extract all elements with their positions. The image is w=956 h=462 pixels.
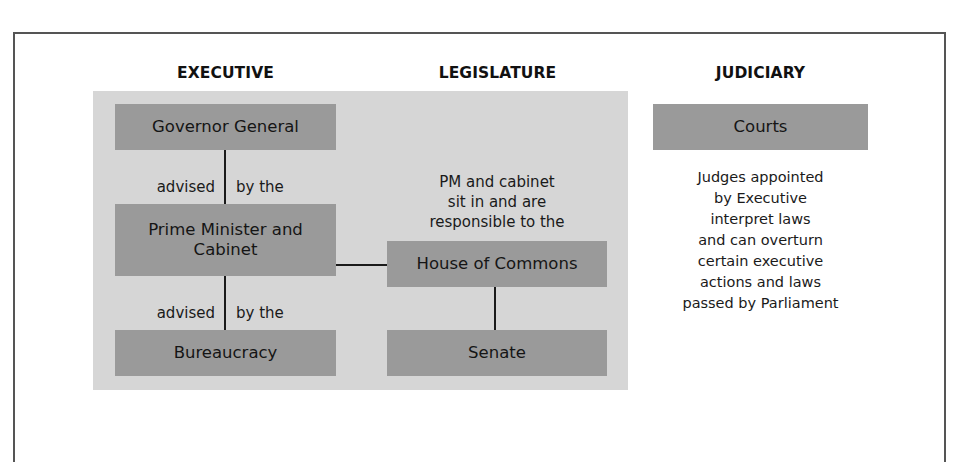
governor-general-box: Governor General (115, 104, 336, 150)
pm-cabinet-box: Prime Minister and Cabinet (115, 204, 336, 276)
pm-cabinet-label-line1: Prime Minister and (148, 220, 303, 240)
link1-left-label: advised (133, 178, 215, 196)
bureaucracy-box: Bureaucracy (115, 330, 336, 376)
connector-commons-senate (494, 287, 496, 330)
link2-left-label: advised (133, 304, 215, 322)
house-of-commons-label: House of Commons (416, 254, 577, 274)
connector-gg-pm (224, 150, 226, 204)
senate-box: Senate (387, 330, 607, 376)
connector-pm-bureaucracy (224, 276, 226, 330)
heading-executive: EXECUTIVE (93, 64, 358, 82)
senate-label: Senate (468, 343, 526, 363)
house-of-commons-box: House of Commons (387, 241, 607, 287)
courts-box: Courts (653, 104, 868, 150)
heading-legislature: LEGISLATURE (380, 64, 615, 82)
legislature-note-line: sit in and are (387, 192, 607, 212)
legislature-note-line: PM and cabinet (387, 172, 607, 192)
judiciary-note: Judges appointed by Executive interpret … (653, 167, 868, 314)
judiciary-note-line: actions and laws (653, 272, 868, 293)
judiciary-note-line: by Executive (653, 188, 868, 209)
legislature-note-line: responsible to the (387, 212, 607, 232)
link2-right-label: by the (236, 304, 284, 322)
link1-right-label: by the (236, 178, 284, 196)
judiciary-note-line: interpret laws (653, 209, 868, 230)
judiciary-note-line: and can overturn (653, 230, 868, 251)
judiciary-note-line: certain executive (653, 251, 868, 272)
courts-label: Courts (734, 117, 788, 137)
legislature-note: PM and cabinet sit in and are responsibl… (387, 172, 607, 232)
governor-general-label: Governor General (152, 117, 299, 137)
connector-pm-commons (336, 264, 387, 266)
bureaucracy-label: Bureaucracy (174, 343, 278, 363)
judiciary-note-line: Judges appointed (653, 167, 868, 188)
judiciary-note-line: passed by Parliament (653, 293, 868, 314)
heading-judiciary: JUDICIARY (653, 64, 868, 82)
pm-cabinet-label-line2: Cabinet (194, 240, 258, 260)
